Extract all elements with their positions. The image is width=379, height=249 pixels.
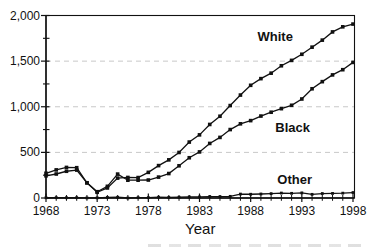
series-marker-black: [269, 110, 273, 114]
series-marker-black: [280, 107, 284, 111]
series-marker-other: [311, 193, 314, 196]
series-label-other: Other: [277, 172, 312, 187]
series-marker-white: [85, 181, 89, 185]
series-marker-white: [239, 93, 243, 97]
series-marker-other: [106, 196, 109, 199]
series-marker-white: [198, 133, 202, 137]
series-label-black: Black: [275, 120, 310, 135]
series-marker-black: [177, 164, 181, 168]
series-marker-other: [65, 196, 68, 199]
series-marker-other: [300, 191, 303, 194]
series-marker-other: [229, 195, 232, 198]
series-marker-black: [290, 103, 294, 107]
x-axis-tick-label: 1978: [135, 204, 162, 218]
series-marker-black: [65, 166, 69, 170]
series-marker-black: [198, 150, 202, 154]
series-marker-black: [351, 61, 355, 65]
series-marker-other: [331, 192, 334, 195]
series-marker-black: [187, 156, 191, 160]
series-marker-black: [321, 80, 325, 84]
y-axis-tick-label: 1,500: [10, 54, 40, 68]
series-marker-white: [136, 176, 140, 180]
series-marker-other: [198, 196, 201, 199]
series-marker-black: [167, 172, 171, 176]
series-marker-other: [321, 192, 324, 195]
x-axis-tick-label: 1988: [237, 204, 264, 218]
series-marker-black: [249, 119, 253, 123]
series-marker-other: [280, 192, 283, 195]
series-marker-other: [147, 196, 150, 199]
series-marker-other: [55, 196, 58, 199]
series-marker-other: [260, 193, 263, 196]
series-marker-other: [239, 193, 242, 196]
series-marker-black: [239, 122, 243, 126]
x-axis-tick-label: 1983: [186, 204, 213, 218]
series-marker-white: [147, 171, 151, 175]
series-marker-white: [331, 30, 335, 34]
series-marker-white: [249, 84, 253, 88]
series-marker-other: [352, 191, 355, 194]
chart-canvas: 05001,0001,5002,000196819731978198319881…: [0, 0, 379, 249]
death-row-by-race-line-chart: 05001,0001,5002,000196819731978198319881…: [0, 0, 379, 249]
series-marker-black: [208, 142, 212, 146]
series-marker-white: [65, 169, 69, 173]
series-marker-black: [218, 136, 222, 140]
series-marker-other: [167, 196, 170, 199]
series-marker-white: [208, 123, 212, 127]
x-axis-tick-label: 1973: [84, 204, 111, 218]
y-axis-tick-label: 1,000: [10, 100, 40, 114]
series-marker-white: [54, 172, 58, 176]
series-marker-white: [280, 64, 284, 68]
y-axis-tick-label: 500: [20, 145, 40, 159]
y-axis-tick-label: 2,000: [10, 9, 40, 23]
series-marker-black: [310, 87, 314, 91]
series-marker-white: [351, 22, 355, 26]
series-marker-white: [157, 164, 161, 168]
series-marker-white: [259, 77, 263, 81]
series-marker-black: [157, 175, 161, 179]
series-marker-other: [188, 196, 191, 199]
series-marker-white: [290, 59, 294, 63]
series-marker-black: [341, 68, 345, 72]
series-marker-other: [219, 195, 222, 198]
series-marker-white: [341, 25, 345, 29]
series-marker-black: [300, 97, 304, 101]
series-marker-white: [218, 114, 222, 118]
series-marker-other: [45, 196, 48, 199]
series-marker-other: [86, 197, 89, 200]
series-marker-white: [321, 38, 325, 42]
series-marker-other: [178, 196, 181, 199]
series-marker-other: [75, 196, 78, 199]
series-marker-other: [208, 195, 211, 198]
series-marker-other: [137, 196, 140, 199]
series-marker-black: [54, 168, 58, 172]
series-marker-black: [259, 114, 263, 118]
series-marker-other: [270, 192, 273, 195]
series-marker-white: [310, 45, 314, 49]
y-axis-tick-label: 0: [33, 191, 40, 205]
series-marker-white: [126, 176, 130, 180]
series-marker-other: [249, 193, 252, 196]
series-line-white: [46, 24, 353, 192]
series-marker-white: [300, 52, 304, 56]
series-marker-white: [44, 174, 48, 178]
x-axis-tick-label: 1993: [288, 204, 315, 218]
series-marker-white: [177, 151, 181, 155]
series-marker-white: [106, 186, 110, 190]
series-marker-white: [95, 190, 99, 194]
cropped-caption-fragment: [148, 244, 366, 247]
x-axis-tick-label: 1998: [340, 204, 367, 218]
series-marker-other: [116, 196, 119, 199]
series-marker-other: [126, 197, 129, 200]
series-marker-other: [96, 196, 99, 199]
x-axis-title: Year: [185, 220, 215, 237]
series-marker-white: [116, 176, 120, 180]
series-marker-black: [116, 172, 120, 176]
series-marker-other: [157, 196, 160, 199]
x-axis-tick-label: 1968: [33, 204, 60, 218]
series-marker-other: [290, 192, 293, 195]
series-marker-white: [167, 158, 171, 162]
series-label-white: White: [258, 29, 293, 44]
series-marker-other: [341, 192, 344, 195]
series-marker-white: [75, 168, 79, 172]
